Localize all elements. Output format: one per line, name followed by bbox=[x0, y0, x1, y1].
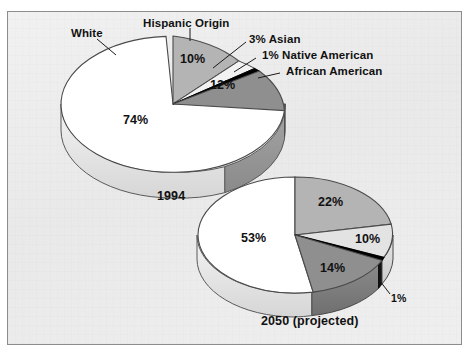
pie-1994 bbox=[61, 28, 285, 198]
value-hispanic-1994: 10% bbox=[180, 52, 205, 66]
chart-figure: White Hispanic Origin 3% Asian 1% Native… bbox=[0, 0, 472, 354]
value-african-american-1994: 12% bbox=[210, 78, 235, 92]
pie-2050 bbox=[197, 177, 393, 317]
value-white-1994: 74% bbox=[123, 113, 148, 127]
label-asian-1994: 3% Asian bbox=[249, 33, 301, 45]
value-african-american-2050: 14% bbox=[320, 261, 345, 275]
label-hispanic-origin-1994: Hispanic Origin bbox=[143, 17, 230, 29]
title-2050: 2050 (projected) bbox=[261, 314, 358, 328]
leader-line-native-american-2050 bbox=[380, 281, 390, 294]
title-1994: 1994 bbox=[157, 189, 185, 203]
label-african-american-1994: African American bbox=[286, 65, 382, 77]
value-asian-2050: 10% bbox=[355, 232, 380, 246]
label-native-american-1994: 1% Native American bbox=[262, 49, 373, 61]
label-white-1994: White bbox=[71, 27, 103, 39]
value-hispanic-2050: 22% bbox=[318, 195, 343, 209]
pie-1994-wall-african-american bbox=[284, 104, 285, 137]
value-white-2050: 53% bbox=[241, 231, 266, 245]
value-native-american-2050: 1% bbox=[391, 292, 406, 304]
